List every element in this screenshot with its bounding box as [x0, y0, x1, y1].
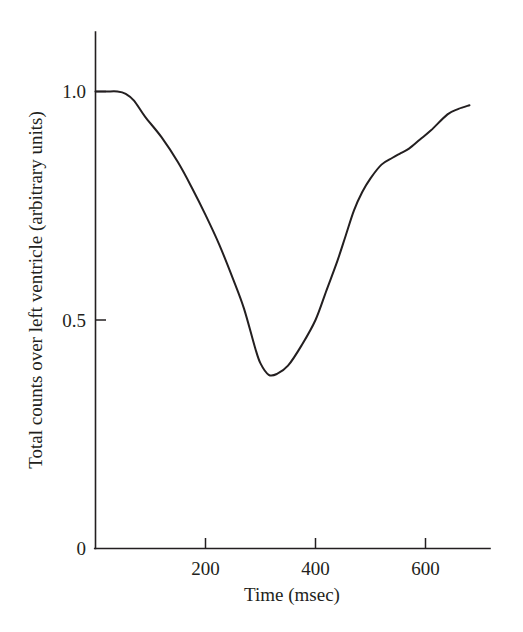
y-tick-label-1.0: 1.0 — [62, 81, 86, 102]
x-tick-label-400: 400 — [301, 558, 330, 579]
data-curve-total-counts — [96, 91, 470, 375]
y-tick-label-0.5: 0.5 — [62, 310, 86, 331]
chart-figure: 1.0 0.5 0 200 400 600 Time (msec) Total … — [0, 0, 523, 632]
y-axis-title: Total counts over left ventricle (arbitr… — [25, 111, 47, 468]
y-tick-label-0: 0 — [77, 538, 87, 559]
line-chart: 1.0 0.5 0 200 400 600 Time (msec) Total … — [0, 0, 523, 632]
x-axis-title: Time (msec) — [244, 584, 340, 606]
x-tick-label-200: 200 — [191, 558, 220, 579]
x-tick-label-600: 600 — [411, 558, 440, 579]
